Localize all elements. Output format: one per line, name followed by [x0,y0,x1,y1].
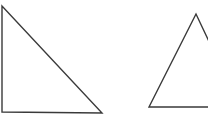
right-triangle [2,6,102,113]
acute-triangle [149,14,208,107]
diagram-canvas [0,0,208,138]
